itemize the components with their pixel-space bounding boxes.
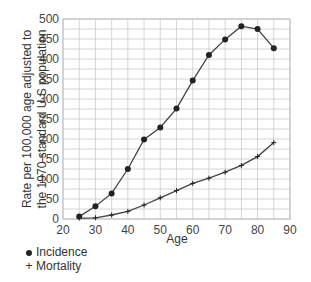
x-tick-label: 80: [251, 223, 265, 237]
x-tick-label: 40: [121, 223, 135, 237]
data-point: [223, 170, 228, 175]
legend-label: Incidence: [36, 245, 87, 259]
legend: Incidence + Mortality: [22, 245, 87, 273]
data-point: [239, 163, 244, 168]
data-point: [206, 176, 211, 181]
legend-item-incidence: Incidence: [22, 245, 87, 259]
dot-marker-icon: [22, 245, 36, 259]
data-point: [142, 203, 147, 208]
legend-item-mortality: + Mortality: [22, 259, 87, 273]
data-point: [109, 190, 115, 196]
data-point: [206, 52, 212, 58]
x-tick-label: 50: [154, 223, 168, 237]
data-point: [158, 195, 163, 200]
x-axis-title: Age: [166, 232, 188, 246]
line-chart: 050100150200250300350400450500 203040506…: [0, 0, 311, 282]
x-tick-label: 70: [218, 223, 232, 237]
data-point: [238, 23, 244, 29]
data-point: [93, 215, 98, 220]
data-point: [125, 209, 130, 214]
x-tick-label: 60: [186, 223, 200, 237]
data-point: [125, 166, 131, 172]
legend-label: Mortality: [36, 259, 81, 273]
data-point: [141, 136, 147, 142]
data-point: [190, 78, 196, 84]
data-point: [190, 181, 195, 186]
x-tick-label: 30: [89, 223, 103, 237]
y-axis-title-line-1: Rate per 100,000 age adjusted to: [20, 30, 34, 208]
y-tick-label: 500: [39, 12, 59, 26]
x-tick-label: 20: [56, 223, 70, 237]
data-point: [157, 124, 163, 130]
y-axis-title-line-2: the 1970 standard U.S population: [35, 30, 49, 209]
data-point: [222, 36, 228, 42]
data-point: [109, 213, 114, 218]
x-tick-label: 90: [283, 223, 297, 237]
data-point: [255, 26, 261, 32]
data-point: [174, 106, 180, 112]
data-point: [271, 45, 277, 51]
data-point: [92, 203, 98, 209]
plus-marker-icon: +: [22, 259, 36, 273]
